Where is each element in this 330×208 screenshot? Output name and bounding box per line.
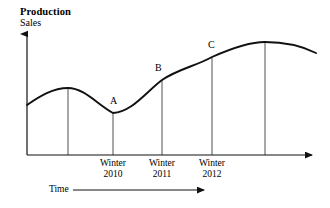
sales-curve	[27, 42, 316, 113]
x-tick-winter-2010-year: 2010	[85, 169, 141, 180]
x-tick-winter-2012: Winter 2012	[184, 158, 240, 181]
y-axis-label-sales: Sales	[20, 18, 41, 29]
annotation-point-b: B	[155, 62, 162, 73]
x-tick-winter-2012-season: Winter	[184, 158, 240, 169]
annotation-point-a: A	[110, 95, 117, 106]
chart-figure: Production Sales A B C Winter 2010 Winte…	[0, 0, 330, 208]
annotation-point-c: C	[208, 39, 215, 50]
chart-title-production: Production	[20, 6, 71, 17]
x-tick-winter-2011: Winter 2011	[134, 158, 190, 181]
x-tick-winter-2011-year: 2011	[134, 169, 190, 180]
x-tick-winter-2010-season: Winter	[85, 158, 141, 169]
x-tick-winter-2010: Winter 2010	[85, 158, 141, 181]
x-axis-label-time: Time	[49, 184, 69, 194]
drop-lines	[68, 42, 265, 155]
x-tick-winter-2012-year: 2012	[184, 169, 240, 180]
x-tick-winter-2011-season: Winter	[134, 158, 190, 169]
